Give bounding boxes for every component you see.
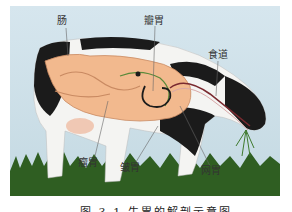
label-intestine: 肠 [57,16,67,26]
label-reticulum: 网胃 [201,166,221,176]
label-omasum: 瓣胃 [144,16,164,26]
figure-caption: 图 3-1 牛胃的解剖示意图 [80,203,232,212]
label-esophagus: 食道 [208,50,228,60]
label-rumen: 瘤胃 [78,158,98,168]
cow-stomach-illustration: 肠 瓣胃 食道 瘤胃 皱胃 网胃 [10,6,280,196]
label-abomasum: 皱胃 [120,163,140,173]
cow-drawing [10,6,280,196]
